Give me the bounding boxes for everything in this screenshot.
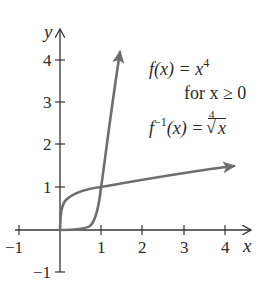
x-tick-label: 3 (180, 239, 189, 256)
f-inverse-args: (x) = (167, 118, 208, 138)
f-label-text: f(x) = x (149, 59, 203, 79)
f-label: f(x) = x4 (149, 60, 209, 78)
f-inverse-label: f−1(x) = 4√x (149, 118, 226, 137)
y-axis-label: y (44, 22, 52, 41)
y-tick-label: 4 (43, 52, 52, 69)
x-tick-label: 2 (138, 239, 147, 256)
curve-f-inverse (60, 166, 234, 230)
f-inverse-exponent: −1 (154, 115, 167, 129)
x-tick-label: 4 (221, 239, 230, 256)
domain-label: for x ≥ 0 (184, 84, 246, 102)
fourth-root: 4√x (208, 118, 226, 137)
radical-sign-icon: √ (206, 118, 216, 136)
x-tick-label: 1 (97, 239, 106, 256)
y-tick-label: 2 (43, 136, 52, 153)
y-tick-label: −1 (33, 264, 51, 281)
y-tick-label: 1 (43, 179, 52, 196)
y-tick-label: 3 (43, 94, 52, 111)
x-axis-label: x (243, 236, 251, 255)
x-tick-label: −1 (5, 239, 23, 256)
curve-f-x4 (60, 52, 120, 230)
f-label-exponent: 4 (203, 56, 209, 70)
